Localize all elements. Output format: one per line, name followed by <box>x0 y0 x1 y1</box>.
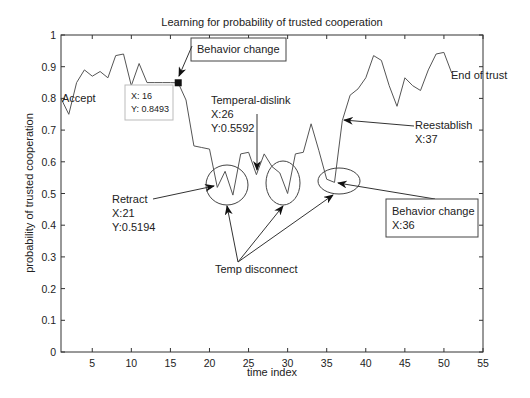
chart-title: Learning for probability of trusted coop… <box>161 16 382 28</box>
arrow-icon <box>179 46 192 76</box>
data-marker[interactable] <box>175 79 182 86</box>
x-tick-label: 15 <box>165 357 177 369</box>
behavior-change-bottom-x: X:36 <box>392 219 415 231</box>
y-tick-label: 0.1 <box>41 314 56 326</box>
arrow-icon <box>227 206 238 262</box>
annotation-reestablish: Reestablish X:37 <box>344 119 472 145</box>
arrow-icon <box>344 120 414 126</box>
y-tick-label: 0.2 <box>41 283 56 295</box>
x-tick-label: 20 <box>204 357 216 369</box>
behavior-change-top-text: Behavior change <box>197 43 280 55</box>
x-tick-label: 50 <box>438 357 450 369</box>
x-tick-label: 55 <box>477 357 489 369</box>
x-tick-label: 5 <box>89 357 95 369</box>
reestablish-x: X:37 <box>415 133 438 145</box>
y-tick-label: 1 <box>50 29 56 41</box>
retract-text: Retract <box>112 193 147 205</box>
y-tick-label: 0.3 <box>41 251 56 263</box>
y-axis-label: probability of trusted cooperation <box>23 113 35 273</box>
temp-disconnect-text: Temp disconnect <box>215 263 298 275</box>
y-tick-label: 0 <box>50 346 56 358</box>
temperal-dislink-x: X:26 <box>211 108 234 120</box>
datatip: X: 16 Y: 0.8493 <box>125 85 173 120</box>
y-tick-label: 0.7 <box>41 124 56 136</box>
temperal-dislink-y: Y:0.5592 <box>211 122 254 134</box>
x-axis-label: time index <box>247 366 298 378</box>
y-axis-ticks: 00.10.20.30.40.50.60.70.80.91 <box>41 29 483 358</box>
retract-x: X:21 <box>112 207 135 219</box>
temperal-dislink-text: Temperal-dislink <box>211 94 291 106</box>
annotation-behavior-change-bottom: Behavior change X:36 <box>338 183 478 237</box>
arrow-icon <box>153 186 214 199</box>
annotation-temp-disconnect: Temp disconnect <box>215 195 333 275</box>
y-tick-label: 0.5 <box>41 188 56 200</box>
x-tick-label: 35 <box>321 357 333 369</box>
x-tick-label: 40 <box>360 357 372 369</box>
x-tick-label: 45 <box>399 357 411 369</box>
annotation-behavior-change-top: Behavior change <box>179 38 286 76</box>
y-tick-label: 0.8 <box>41 92 56 104</box>
behavior-change-bottom-text: Behavior change <box>392 205 475 217</box>
datatip-x: X: 16 <box>131 91 152 101</box>
chart: Learning for probability of trusted coop… <box>0 0 530 398</box>
y-tick-label: 0.6 <box>41 156 56 168</box>
annotation-accept: Accept <box>62 92 96 104</box>
annotation-retract: Retract X:21 Y:0.5194 <box>112 186 214 233</box>
x-tick-label: 10 <box>125 357 137 369</box>
circle-behavior-change <box>318 168 360 194</box>
circle-temp-disconnect-2 <box>266 161 300 205</box>
reestablish-text: Reestablish <box>415 119 472 131</box>
datatip-y: Y: 0.8493 <box>131 104 169 114</box>
retract-y: Y:0.5194 <box>112 221 155 233</box>
y-tick-label: 0.9 <box>41 61 56 73</box>
annotation-end-of-trust: End of trust <box>451 69 507 81</box>
y-tick-label: 0.4 <box>41 219 56 231</box>
arrow-icon <box>238 206 283 262</box>
circle-temp-disconnect-1 <box>206 165 248 205</box>
